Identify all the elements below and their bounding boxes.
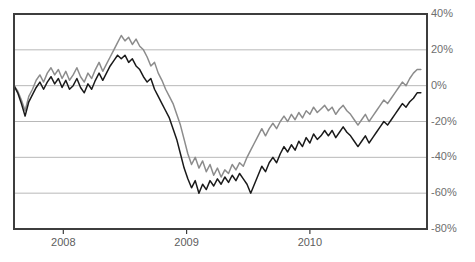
y-axis-label: -80% bbox=[431, 223, 457, 234]
y-axis-label: -60% bbox=[431, 187, 457, 198]
y-axis-label: 20% bbox=[431, 44, 453, 55]
y-axis-label: -40% bbox=[431, 151, 457, 162]
line-chart-plot bbox=[0, 0, 475, 262]
x-axis-label: 2010 bbox=[280, 237, 340, 248]
y-axis-label: -20% bbox=[431, 116, 457, 127]
chart-container: 40%20%0%-20%-40%-60%-80%200820092010 bbox=[0, 0, 475, 262]
y-axis-label: 0% bbox=[431, 80, 447, 91]
x-axis-label: 2009 bbox=[157, 237, 217, 248]
x-axis-label: 2008 bbox=[33, 237, 93, 248]
y-axis-label: 40% bbox=[431, 8, 453, 19]
